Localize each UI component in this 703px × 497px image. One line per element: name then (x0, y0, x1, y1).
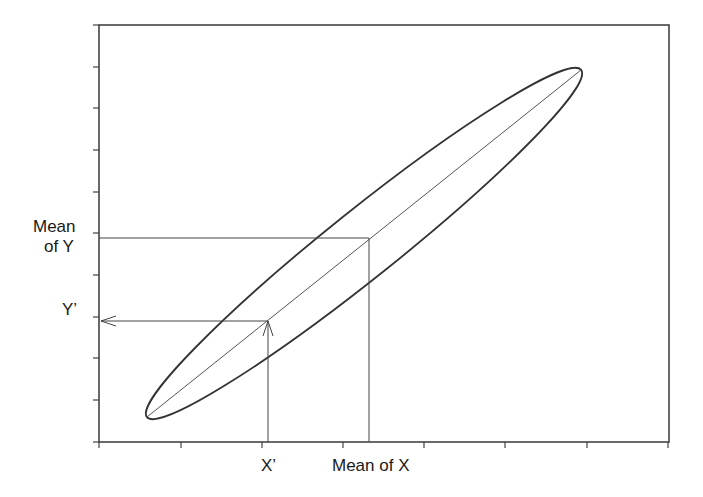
y-axis-ticks (93, 25, 99, 442)
regression-line (147, 70, 581, 417)
y-prime-label: Y’ (62, 300, 77, 319)
mean-x-label: Mean of X (332, 456, 410, 475)
x-axis-ticks (99, 442, 668, 448)
mean-y-label-line1: Mean (33, 217, 76, 236)
x-prime-label: X’ (261, 456, 276, 475)
plot-frame (99, 25, 669, 442)
mean-y-label-line2: of Y (44, 237, 74, 256)
diagram-canvas (0, 0, 703, 497)
